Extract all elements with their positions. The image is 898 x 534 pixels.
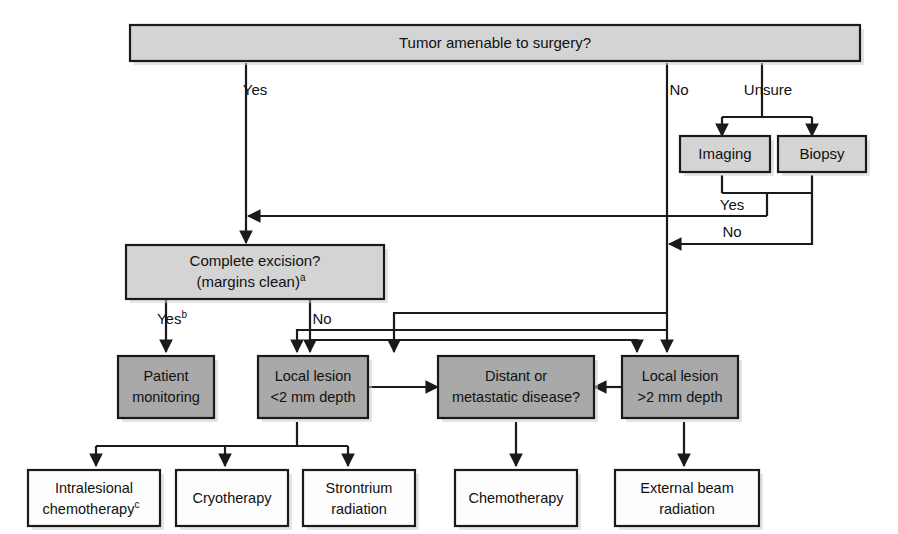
node-label-line1: Strontrium (326, 480, 393, 496)
node-label-line2: chemotherapyc (43, 499, 140, 517)
edge-label-root-no: No (669, 81, 688, 98)
node-label-line2: >2 mm depth (637, 389, 722, 405)
node-label-line2: (margins clean)a (197, 272, 306, 290)
node-label: Tumor amenable to surgery? (399, 34, 591, 51)
node-intralesional-chemotherapy[interactable]: Intralesional chemotherapyc (28, 470, 164, 530)
node-biopsy[interactable]: Biopsy (778, 136, 870, 176)
node-label-line2: monitoring (132, 389, 200, 405)
node-box (118, 356, 214, 418)
node-strontrium-radiation[interactable]: Strontrium radiation (303, 470, 419, 530)
node-label-line1: Local lesion (642, 368, 719, 384)
node-cryotherapy[interactable]: Cryotherapy (176, 470, 292, 530)
node-label-line2: <2 mm depth (270, 389, 355, 405)
node-label-line1: Patient (143, 368, 188, 384)
edge-label-workup-yes: Yes (720, 196, 744, 213)
node-label-line2: metastatic disease? (452, 389, 580, 405)
node-label-line1: Intralesional (55, 480, 133, 496)
node-label-line1: Distant or (485, 368, 547, 384)
node-local-lesion-large[interactable]: Local lesion >2 mm depth (622, 356, 742, 422)
node-external-beam-radiation[interactable]: External beam radiation (615, 470, 763, 530)
node-patient-monitoring[interactable]: Patient monitoring (118, 356, 218, 422)
node-box (615, 470, 759, 526)
flowchart-svg: Tumor amenable to surgery? Imaging Biops… (0, 0, 898, 534)
node-label: Chemotherapy (468, 490, 564, 506)
node-box (303, 470, 415, 526)
node-box (28, 470, 160, 526)
edge-label-excision-yes: Yesb (157, 309, 187, 327)
node-label: Imaging (698, 145, 751, 162)
node-local-lesion-small[interactable]: Local lesion <2 mm depth (258, 356, 372, 422)
flowchart-diagram: Tumor amenable to surgery? Imaging Biops… (0, 0, 898, 534)
node-box (622, 356, 738, 418)
edge-excision-no-to-local-large (310, 340, 637, 352)
node-distant-metastatic[interactable]: Distant or metastatic disease? (438, 356, 598, 422)
node-label-line1: Local lesion (275, 368, 352, 384)
node-label-line1: Complete excision? (190, 252, 321, 269)
node-complete-excision[interactable]: Complete excision? (margins clean)a (126, 245, 388, 303)
node-label-line2: radiation (331, 501, 387, 517)
edge-no-to-distant (394, 313, 667, 352)
edge-label-workup-no: No (722, 223, 741, 240)
node-box (438, 356, 594, 418)
node-imaging[interactable]: Imaging (680, 136, 774, 176)
node-tumor-amenable[interactable]: Tumor amenable to surgery? (130, 25, 864, 65)
edge-label-root-yes: Yes (243, 81, 267, 98)
node-label: Cryotherapy (193, 490, 273, 506)
node-label-line2: radiation (659, 501, 715, 517)
node-box (258, 356, 368, 418)
node-chemotherapy[interactable]: Chemotherapy (455, 470, 581, 530)
edge-label-root-unsure: Unsure (744, 81, 792, 98)
edge-label-excision-no: No (312, 310, 331, 327)
node-label-line1: External beam (640, 480, 734, 496)
node-label: Biopsy (799, 145, 845, 162)
